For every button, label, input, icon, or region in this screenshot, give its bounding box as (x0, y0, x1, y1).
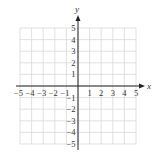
y-tick-label: 5 (71, 23, 75, 33)
x-tick-label: 5 (134, 88, 138, 98)
x-tick-label: −3 (37, 88, 46, 98)
y-tick-label: 3 (71, 46, 75, 56)
x-tick-label: −4 (26, 88, 36, 98)
y-axis-label: y (74, 4, 79, 14)
x-tick-label: 4 (122, 88, 127, 98)
coordinate-plane: x y −5−4−3−2−112345 54321−1−2−3−4−5 (0, 0, 155, 161)
x-axis-label: x (146, 81, 151, 91)
y-tick-label: 1 (71, 69, 75, 79)
y-tick-label: 2 (71, 58, 75, 68)
x-tick-labels: −5−4−3−2−112345 (14, 88, 138, 98)
x-tick-label: −2 (49, 88, 58, 98)
x-tick-label: −5 (14, 88, 23, 98)
x-tick-label: 3 (111, 88, 115, 98)
y-tick-label: −4 (66, 127, 76, 137)
x-tick-label: 1 (87, 88, 91, 98)
axes (16, 15, 145, 150)
y-tick-label: −3 (66, 116, 75, 126)
y-tick-label: −2 (66, 104, 75, 114)
x-tick-label: 2 (99, 88, 103, 98)
y-tick-label: −5 (66, 139, 75, 149)
x-axis-arrow-icon (139, 84, 145, 89)
y-tick-label: −1 (66, 93, 75, 103)
y-axis-arrow-icon (76, 15, 81, 21)
